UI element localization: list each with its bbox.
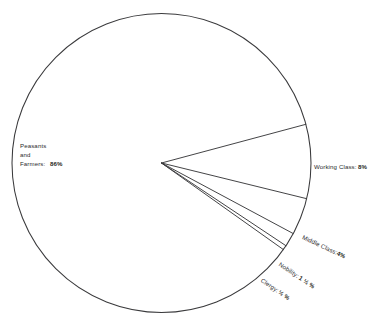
nobility-label-text: Nobility: — [278, 261, 301, 280]
middle-class-label-text: Middle Class: — [301, 233, 339, 256]
peasants-label-line-2: and — [20, 151, 31, 158]
peasants-label-line-3: Farmers: — [20, 160, 46, 167]
nobility-label-value: 1 ½ % — [298, 274, 317, 290]
middle-class-label-value: 4% — [336, 249, 348, 259]
pie-chart-canvas: Peasants and Farmers: 86% Working Class:… — [0, 0, 388, 322]
clergy-label-value: ½ % — [277, 288, 292, 301]
working-class-label-value: 8% — [358, 163, 368, 170]
clergy-label-text: Clergy: — [260, 277, 281, 294]
pie-label-nobility: Nobility: 1 ½ % — [278, 261, 317, 290]
pie-label-middle-class: Middle Class: 4% — [301, 233, 347, 259]
peasants-label-value: 86% — [50, 160, 63, 167]
working-class-label-text: Working Class: — [314, 163, 357, 170]
peasants-label-line-1: Peasants — [20, 142, 46, 149]
pie-chart-figure: Peasants and Farmers: 86% Working Class:… — [0, 0, 388, 322]
pie-label-working-class: Working Class: 8% — [314, 163, 368, 170]
pie-label-clergy: Clergy: ½ % — [260, 277, 292, 302]
